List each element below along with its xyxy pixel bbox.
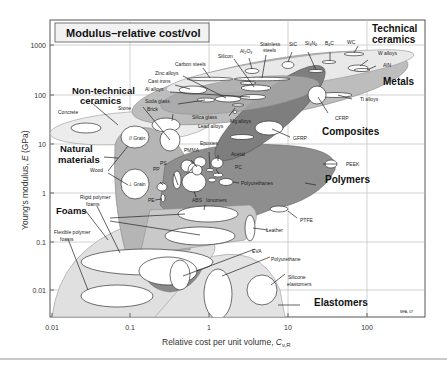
x-tick-0: 0.01: [45, 324, 59, 331]
bubble-silicon: [241, 85, 271, 91]
label-leather: Leather: [266, 227, 283, 233]
label-polymers: Polymers: [325, 174, 370, 185]
bubble-mg-alloys: [233, 111, 237, 114]
y-tick-5: 0.01: [32, 287, 46, 294]
label-flex-2: foams: [60, 236, 74, 242]
bubble-abs: [182, 172, 206, 192]
x-tick-2: 1: [207, 324, 211, 331]
label-ionomers: Ionomers: [206, 197, 227, 203]
x-tick-labels: 0.01 0.1 1 10 100: [45, 324, 373, 331]
label-non-technical-2: ceramics: [80, 95, 121, 106]
bubble-lead: [230, 135, 254, 140]
x-axis-title: Relative cost per unit volume, Cv,R: [162, 337, 291, 348]
label-technical-ceramics-2: ceramics: [372, 34, 416, 45]
label-ps: PS: [160, 160, 167, 166]
bubble-polyurethane: [204, 269, 232, 319]
label-soda-glass: Soda glass: [145, 98, 170, 104]
label-abs: ABS: [192, 197, 203, 203]
label-ti: Ti alloys: [360, 96, 379, 102]
label-pc: PC: [235, 164, 242, 170]
label-perp-grain: ⊥ Grain: [128, 181, 146, 187]
bubble-ptfe: [270, 206, 288, 212]
bubble-ps: [173, 171, 181, 189]
bubble-gfrp: [255, 121, 283, 135]
label-silica: Silica glass: [192, 114, 218, 120]
label-epoxies: Epoxies: [200, 140, 218, 146]
label-natural-1: Natural: [60, 143, 93, 154]
label-silicone-1: Silicone: [288, 274, 306, 280]
x-tick-4: 100: [361, 324, 373, 331]
label-metals: Metals: [383, 76, 415, 87]
x-tick-3: 10: [284, 324, 292, 331]
label-cast-irons: Cast irons: [148, 78, 171, 84]
y-tick-4: 0.1: [36, 239, 46, 246]
y-tick-0: 1000: [30, 42, 46, 49]
label-carbon-steels: Carbon steels: [175, 61, 206, 67]
label-pe: PE: [148, 197, 155, 203]
label-composites: Composites: [322, 126, 380, 137]
label-pmma: PMMA: [184, 147, 200, 153]
label-natural-2: materials: [58, 154, 100, 165]
y-tick-labels: 1000 100 10 1 0.1 0.01: [30, 42, 46, 294]
label-stone: Stone: [118, 105, 131, 111]
bubble-rigid-foam-a: [178, 206, 238, 222]
label-peek: PEEK: [346, 161, 360, 167]
chart-title: Modulus–relative cost/vol: [66, 27, 200, 39]
y-tick-1: 100: [34, 92, 46, 99]
label-foams: Foams: [56, 205, 87, 216]
y-axis-title: Young's modulus, E (GPa): [20, 130, 30, 230]
label-eva: EVA: [252, 248, 262, 254]
material-property-chart: Modulus–relative cost/vol Technical cera…: [0, 0, 447, 367]
bubble-silicon-b: [240, 82, 256, 85]
bubble-cfrp: [308, 86, 326, 104]
label-brick: Brick: [147, 106, 159, 112]
bubble-eva: [170, 260, 190, 290]
label-polyurethane: Polyurethane: [271, 256, 301, 262]
label-acetal: Acetal: [231, 151, 245, 157]
bubble-flex-foam: [81, 285, 153, 307]
label-wc: WC: [347, 39, 356, 45]
label-rigid-1: Rigid polymer: [80, 194, 111, 200]
label-sic: SiC: [289, 41, 297, 47]
label-mg: Mg alloys: [230, 118, 252, 124]
bubble-pe: [161, 194, 165, 202]
label-silicon: Silicon: [218, 53, 233, 59]
bubble-rigid-foam-b: [165, 227, 235, 245]
x-tick-1: 0.1: [125, 324, 135, 331]
label-polyurethanes: Polyurethanes: [241, 180, 273, 186]
label-cfrp: CFRP: [335, 115, 349, 121]
bubble-epoxies: [206, 169, 214, 172]
bubble-al2o3: [245, 69, 259, 74]
label-silicone-2: elastomers: [287, 281, 312, 287]
label-pp: PP: [153, 166, 160, 172]
bubble-pc-b: [208, 178, 216, 182]
bubble-b4c: [322, 61, 336, 64]
bubble-pc: [213, 173, 223, 177]
bubble-concrete: [71, 123, 101, 133]
bubble-acetal: [211, 158, 223, 168]
label-flex-1: Flexible polymer: [54, 229, 91, 235]
label-lead: Lead alloys: [198, 123, 224, 129]
label-w-alloys: W alloys: [378, 50, 397, 56]
label-rigid-2: foams: [86, 201, 100, 207]
bubble-soda-glass: [197, 98, 215, 102]
label-par-grain: // Grain: [129, 135, 146, 141]
bubble-zinc: [215, 96, 241, 102]
label-ptfe: PTFE: [300, 217, 313, 223]
label-b4c: B4C: [325, 40, 334, 47]
label-gfrp: GFRP: [293, 135, 308, 141]
page-divider: [0, 358, 447, 360]
bubble-al-alloys: [240, 95, 266, 100]
label-zinc: Zinc alloys: [155, 70, 179, 76]
label-stainless-2: steels: [263, 47, 277, 53]
bubble-polyurethanes: [219, 179, 233, 186]
bubble-sic: [282, 62, 294, 69]
bubble-silica: [232, 104, 244, 106]
label-wood: Wood: [90, 167, 103, 173]
bubble-silicone: [247, 275, 277, 305]
label-technical-ceramics-1: Technical: [372, 23, 418, 34]
label-elastomers: Elastomers: [314, 297, 368, 308]
label-concrete: Concrete: [58, 109, 79, 115]
label-al-alloys: Al alloys: [145, 86, 164, 92]
y-tick-2: 10: [38, 141, 46, 148]
